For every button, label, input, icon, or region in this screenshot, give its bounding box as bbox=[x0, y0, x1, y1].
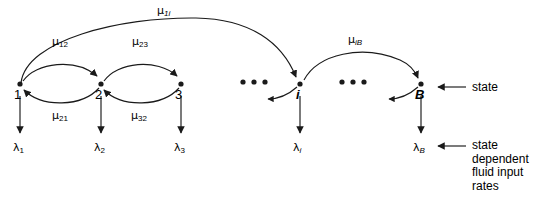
ellipsis-dot bbox=[339, 79, 344, 84]
lambda-subscript: 2 bbox=[101, 146, 105, 155]
mu-glyph: μ bbox=[52, 109, 59, 122]
annotation-rates-line: dependent bbox=[472, 153, 529, 167]
node-dot-2 bbox=[98, 81, 103, 86]
rate-label-lambda-3: λ3 bbox=[174, 142, 185, 155]
arc-mu-21 bbox=[24, 88, 99, 103]
ellipsis-dot bbox=[240, 79, 245, 84]
mu-subscript: 21 bbox=[59, 114, 68, 123]
transition-label-mu-21: μ21 bbox=[52, 110, 68, 123]
mu-glyph: μ bbox=[52, 35, 59, 48]
arc-mu-12 bbox=[23, 64, 97, 81]
arc-mu-iB bbox=[304, 52, 418, 80]
ellipsis-dot bbox=[251, 79, 256, 84]
arc-return-from-B bbox=[389, 87, 418, 99]
lambda-subscript: B bbox=[420, 146, 425, 155]
rate-label-lambda-i: λi bbox=[293, 142, 301, 155]
lambda-subscript: 1 bbox=[20, 146, 24, 155]
node-label-3: 3 bbox=[175, 88, 182, 101]
node-label-B: B bbox=[415, 88, 424, 101]
annotation-state: state bbox=[472, 81, 498, 95]
mu-subscript: iB bbox=[355, 38, 362, 47]
arc-mu-32 bbox=[104, 88, 179, 103]
node-dot-i bbox=[297, 81, 302, 86]
transition-label-mu-32: μ32 bbox=[131, 110, 147, 123]
transition-label-mu-iB: μiB bbox=[348, 34, 362, 47]
ellipsis-dot bbox=[262, 79, 267, 84]
lambda-subscript: 3 bbox=[181, 146, 185, 155]
lambda-subscript: i bbox=[300, 146, 302, 155]
annotation-rates: state dependent fluid input rates bbox=[472, 139, 529, 193]
node-dot-3 bbox=[178, 81, 183, 86]
mu-subscript: 12 bbox=[59, 40, 68, 49]
mu-glyph: μ bbox=[131, 109, 138, 122]
annotation-rates-line: rates bbox=[472, 180, 529, 194]
arc-mu-23 bbox=[104, 64, 177, 81]
annotation-rates-line: state bbox=[472, 139, 529, 153]
node-label-2: 2 bbox=[95, 88, 102, 101]
mu-glyph: μ bbox=[157, 4, 164, 17]
rate-label-lambda-1: λ1 bbox=[13, 142, 24, 155]
rate-label-lambda-B: λB bbox=[413, 142, 425, 155]
mu-subscript: 23 bbox=[139, 40, 148, 49]
ellipsis-dot bbox=[361, 79, 366, 84]
ellipsis-dot bbox=[350, 79, 355, 84]
node-label-i: i bbox=[296, 88, 300, 101]
arc-mu-1i bbox=[21, 18, 296, 83]
mu-glyph: μ bbox=[132, 35, 139, 48]
mu-subscript: 32 bbox=[138, 114, 147, 123]
transition-label-mu-1i: μ1i bbox=[157, 5, 170, 18]
diagram-vector-layer bbox=[0, 0, 545, 205]
node-dot-1 bbox=[17, 81, 22, 86]
fluid-queue-state-diagram: 1 2 3 i B μ1i μ12 μ23 μiB μ21 μ32 λ1 λ2 … bbox=[0, 0, 545, 205]
transition-label-mu-12: μ12 bbox=[52, 36, 68, 49]
mu-subscript: 1i bbox=[164, 9, 170, 18]
arc-return-from-i bbox=[268, 87, 297, 99]
transition-label-mu-23: μ23 bbox=[132, 36, 148, 49]
annotation-rates-line: fluid input bbox=[472, 166, 529, 180]
node-dot-B bbox=[418, 81, 423, 86]
mu-glyph: μ bbox=[348, 33, 355, 46]
rate-label-lambda-2: λ2 bbox=[94, 142, 105, 155]
node-label-1: 1 bbox=[14, 88, 21, 101]
